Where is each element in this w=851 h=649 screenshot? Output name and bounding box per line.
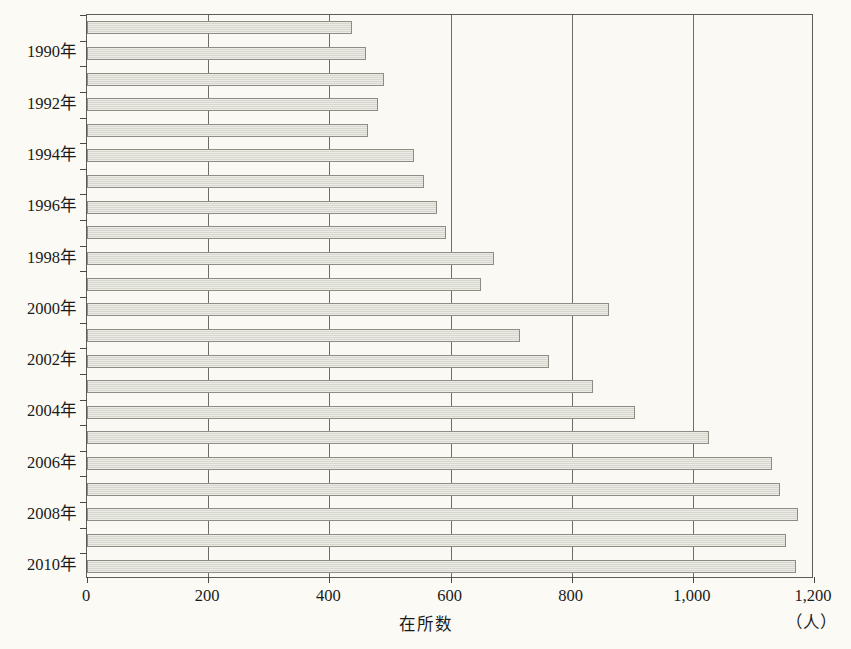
x-axis-label-1000: 1,000 xyxy=(673,588,710,605)
x-axis-tick-600 xyxy=(451,577,452,583)
x-axis-label-400: 400 xyxy=(316,588,341,605)
y-axis-tick xyxy=(80,297,87,298)
bar-row xyxy=(87,66,812,92)
y-axis-tick xyxy=(80,220,87,221)
y-axis-tick xyxy=(80,143,87,144)
x-axis-tick-0 xyxy=(87,577,88,583)
bar-2003年 xyxy=(87,380,593,393)
bar-row xyxy=(87,348,812,374)
bar-row xyxy=(87,15,812,41)
x-axis-tick-1200 xyxy=(814,577,815,583)
y-axis-label-1990年: 1990年 xyxy=(27,44,77,61)
bar-1993年 xyxy=(87,124,368,137)
bar-1996年 xyxy=(87,201,437,214)
bar-row xyxy=(87,374,812,400)
y-axis-tick xyxy=(80,323,87,324)
bar-2002年 xyxy=(87,355,549,368)
x-axis-tick-800 xyxy=(572,577,573,583)
bar-row xyxy=(87,476,812,502)
y-axis-tick xyxy=(80,528,87,529)
bar-row xyxy=(87,528,812,554)
x-axis-label-600: 600 xyxy=(437,588,462,605)
bar-row xyxy=(87,323,812,349)
bar-row xyxy=(87,246,812,272)
bar-row xyxy=(87,297,812,323)
y-axis-tick xyxy=(80,169,87,170)
y-axis-tick xyxy=(80,400,87,401)
y-axis-tick xyxy=(80,425,87,426)
x-axis-title: 在所数 xyxy=(0,611,851,635)
bar-row xyxy=(87,118,812,144)
bar-1992年 xyxy=(87,98,378,111)
bar-row xyxy=(87,553,812,579)
bar-1998年 xyxy=(87,252,494,265)
bar-2007年 xyxy=(87,483,780,496)
y-axis-tick xyxy=(80,374,87,375)
y-axis-label-2008年: 2008年 xyxy=(27,506,77,523)
y-axis-tick xyxy=(80,92,87,93)
bar-row xyxy=(87,451,812,477)
bar-row xyxy=(87,271,812,297)
bar-2006年 xyxy=(87,457,772,470)
y-axis-label-2000年: 2000年 xyxy=(27,301,77,318)
y-axis-tick xyxy=(80,271,87,272)
bar-1994年 xyxy=(87,149,414,162)
x-axis-label-1200: 1,200 xyxy=(794,588,831,605)
y-axis-tick xyxy=(80,41,87,42)
x-axis-tick-1000 xyxy=(693,577,694,583)
bar-2010年 xyxy=(87,560,796,573)
y-axis-label-2010年: 2010年 xyxy=(27,557,77,574)
bar-1989年 xyxy=(87,21,352,34)
y-axis-label-1998年: 1998年 xyxy=(27,250,77,267)
bar-2008年 xyxy=(87,508,798,521)
bar-1995年 xyxy=(87,175,424,188)
y-axis-label-1996年: 1996年 xyxy=(27,198,77,215)
y-axis-tick xyxy=(80,476,87,477)
y-axis-tick xyxy=(80,348,87,349)
bar-row xyxy=(87,41,812,67)
y-axis-tick xyxy=(80,246,87,247)
plot-area xyxy=(86,14,813,578)
y-axis-tick xyxy=(80,502,87,503)
y-axis-tick xyxy=(80,451,87,452)
bar-row xyxy=(87,143,812,169)
bar-1991年 xyxy=(87,73,384,86)
x-axis-label-200: 200 xyxy=(195,588,220,605)
y-axis-label-1992年: 1992年 xyxy=(27,96,77,113)
bar-row xyxy=(87,425,812,451)
y-axis-label-2002年: 2002年 xyxy=(27,352,77,369)
bar-1999年 xyxy=(87,278,481,291)
bar-row xyxy=(87,400,812,426)
y-axis-tick xyxy=(80,194,87,195)
bar-row xyxy=(87,220,812,246)
x-axis-label-0: 0 xyxy=(82,588,90,605)
bar-chart-figure: 1990年1992年1994年1996年1998年2000年2002年2004年… xyxy=(0,0,851,649)
y-axis-tick xyxy=(80,66,87,67)
bar-2004年 xyxy=(87,406,635,419)
bar-1990年 xyxy=(87,47,366,60)
bar-row xyxy=(87,194,812,220)
y-axis-tick xyxy=(80,15,87,16)
bar-2001年 xyxy=(87,329,520,342)
bar-2000年 xyxy=(87,303,609,316)
x-axis-tick-400 xyxy=(329,577,330,583)
bar-2005年 xyxy=(87,431,709,444)
bar-1997年 xyxy=(87,226,446,239)
x-axis-label-800: 800 xyxy=(558,588,583,605)
bar-row xyxy=(87,169,812,195)
y-axis-label-2004年: 2004年 xyxy=(27,403,77,420)
bar-2009年 xyxy=(87,534,786,547)
bar-row xyxy=(87,92,812,118)
x-axis-tick-200 xyxy=(208,577,209,583)
bar-row xyxy=(87,502,812,528)
y-axis-label-1994年: 1994年 xyxy=(27,147,77,164)
x-axis-unit-label: （人） xyxy=(786,609,837,633)
y-axis-label-2006年: 2006年 xyxy=(27,455,77,472)
y-axis-tick xyxy=(80,553,87,554)
y-axis-tick xyxy=(80,118,87,119)
